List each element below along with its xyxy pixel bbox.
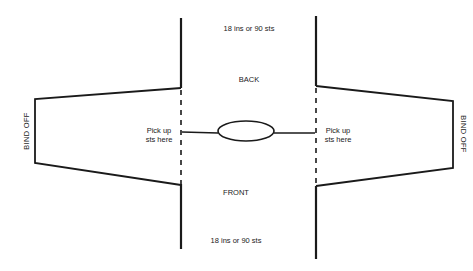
back-label: BACK [239,75,259,84]
pickup-right-line1: Pick up [325,126,352,135]
pickup-right-line2: sts here [325,135,352,144]
bind-off-right-label: BIND OFF [459,115,468,152]
pickup-left-line2: sts here [146,135,173,144]
bind-off-left-label: BIND OFF [22,112,31,149]
pickup-left-line1: Pick up [146,126,173,135]
top-width-label: 18 ins or 90 sts [224,24,275,33]
shoulder-line-left [182,132,218,133]
diagram-lines [0,0,473,271]
pickup-left-label: Pick up sts here [146,126,173,144]
front-label: FRONT [223,188,249,197]
pickup-right-label: Pick up sts here [325,126,352,144]
bottom-width-label: 18 ins or 90 sts [211,236,262,245]
neck-opening [218,121,274,141]
garment-diagram: 18 ins or 90 sts BACK FRONT 18 ins or 90… [0,0,473,271]
